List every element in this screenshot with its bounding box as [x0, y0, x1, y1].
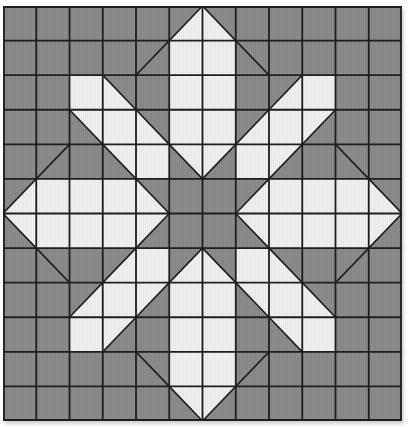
quilt-pattern-canvas — [3, 6, 402, 421]
quilt-grid: Star flower quilt block pattern — [3, 6, 402, 421]
